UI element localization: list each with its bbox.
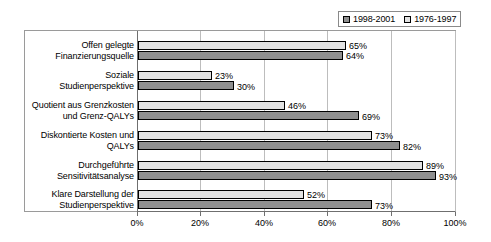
bar-series-1976-1997-cat-4 bbox=[138, 171, 436, 180]
gridline-80 bbox=[391, 31, 392, 211]
xtick-mark-100 bbox=[455, 212, 456, 216]
category-label-line: QALYs bbox=[0, 141, 134, 152]
bar-value-1976-1997-cat-1: 30% bbox=[237, 83, 255, 92]
category-label-line: und Grenz-QALYs bbox=[0, 111, 134, 122]
gridline-100 bbox=[455, 31, 456, 211]
legend-item-1976-1997: 1976-1997 bbox=[404, 14, 456, 24]
legend-label: 1976-1997 bbox=[414, 14, 456, 24]
category-label-line: Soziale bbox=[0, 70, 134, 81]
xtick-label-0: 0% bbox=[117, 218, 157, 229]
xtick-label-100: 100% bbox=[435, 218, 475, 229]
xtick-label-80: 80% bbox=[371, 218, 411, 229]
bar-series-1998-2001-cat-1 bbox=[138, 71, 212, 80]
bar-value-1998-2001-cat-3: 73% bbox=[375, 132, 393, 141]
category-label-line: Studienperspektive bbox=[0, 200, 134, 211]
category-label-1: Soziale Studienperspektive bbox=[0, 70, 134, 91]
bar-value-1998-2001-cat-5: 52% bbox=[307, 191, 325, 200]
bar-value-1976-1997-cat-3: 82% bbox=[403, 143, 421, 152]
bar-series-1976-1997-cat-1 bbox=[138, 81, 234, 90]
xtick-label-40: 40% bbox=[244, 218, 284, 229]
bar-value-1998-2001-cat-0: 65% bbox=[349, 42, 367, 51]
chart-legend: 1998-2001 1976-1997 bbox=[338, 11, 461, 27]
xtick-mark-0 bbox=[137, 212, 138, 216]
category-label-line: Sensitivitätsanalyse bbox=[0, 171, 134, 182]
legend-label: 1998-2001 bbox=[353, 14, 395, 24]
bar-value-1998-2001-cat-4: 89% bbox=[426, 162, 444, 171]
category-label-line: Finanzierungsquelle bbox=[0, 51, 134, 62]
bar-series-1998-2001-cat-3 bbox=[138, 131, 372, 140]
category-label-5: Klare Darstellung der Studienperspektive bbox=[0, 189, 134, 210]
xtick-mark-40 bbox=[264, 212, 265, 216]
x-axis-line bbox=[137, 211, 455, 212]
category-label-0: Offen gelegte Finanzierungsquelle bbox=[0, 40, 134, 61]
category-label-line: Durchgeführte bbox=[0, 160, 134, 171]
legend-item-1998-2001: 1998-2001 bbox=[343, 14, 395, 24]
bar-series-1998-2001-cat-4 bbox=[138, 161, 423, 170]
category-label-line: Quotient aus Grenzkosten bbox=[0, 100, 134, 111]
category-label-line: Studienperspektive bbox=[0, 81, 134, 92]
xtick-label-60: 60% bbox=[307, 218, 347, 229]
bar-series-1976-1997-cat-5 bbox=[138, 200, 372, 209]
bar-value-1976-1997-cat-2: 69% bbox=[362, 113, 380, 122]
category-label-3: Diskontierte Kosten und QALYs bbox=[0, 130, 134, 151]
category-label-line: Diskontierte Kosten und bbox=[0, 130, 134, 141]
bar-chart: 1998-2001 1976-1997 0% 20% 40% 60% 80% 1… bbox=[0, 0, 491, 242]
bar-series-1976-1997-cat-0 bbox=[138, 51, 343, 60]
xtick-label-20: 20% bbox=[180, 218, 220, 229]
legend-swatch-icon bbox=[404, 16, 411, 23]
bar-series-1976-1997-cat-2 bbox=[138, 111, 359, 120]
bar-series-1998-2001-cat-5 bbox=[138, 190, 304, 199]
xtick-mark-60 bbox=[327, 212, 328, 216]
xtick-mark-20 bbox=[200, 212, 201, 216]
bar-value-1976-1997-cat-5: 73% bbox=[375, 202, 393, 211]
xtick-mark-80 bbox=[391, 212, 392, 216]
bar-series-1976-1997-cat-3 bbox=[138, 141, 400, 150]
bar-value-1976-1997-cat-4: 93% bbox=[439, 173, 457, 182]
category-label-line: Offen gelegte bbox=[0, 40, 134, 51]
category-label-2: Quotient aus Grenzkosten und Grenz-QALYs bbox=[0, 100, 134, 121]
bar-series-1998-2001-cat-2 bbox=[138, 101, 285, 110]
category-label-4: Durchgeführte Sensitivitätsanalyse bbox=[0, 160, 134, 181]
bar-series-1998-2001-cat-0 bbox=[138, 41, 346, 50]
bar-value-1998-2001-cat-1: 23% bbox=[215, 72, 233, 81]
bar-value-1998-2001-cat-2: 46% bbox=[288, 102, 306, 111]
bar-value-1976-1997-cat-0: 64% bbox=[346, 52, 364, 61]
legend-swatch-icon bbox=[343, 16, 350, 23]
category-label-line: Klare Darstellung der bbox=[0, 189, 134, 200]
